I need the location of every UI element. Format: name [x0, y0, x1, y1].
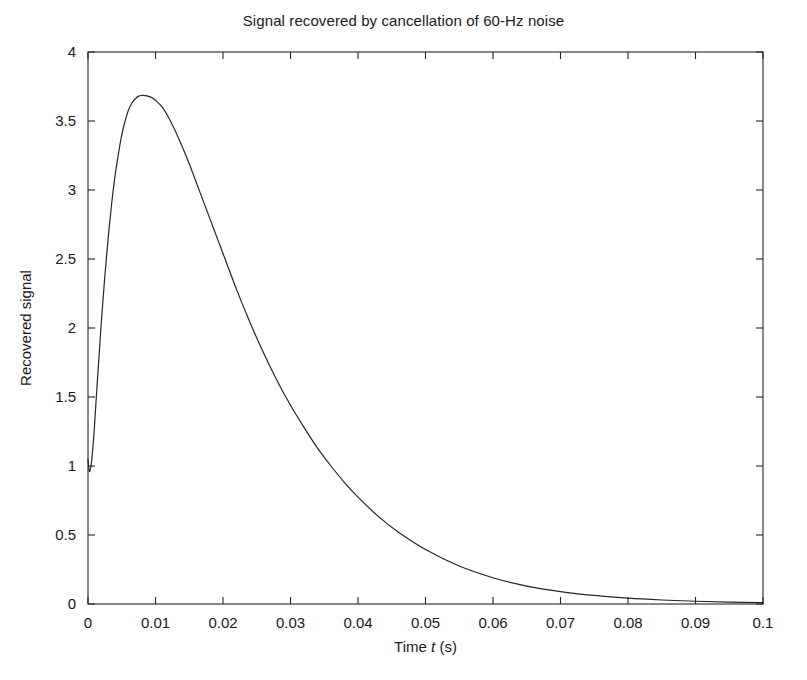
- y-tick-label-0: 0: [68, 595, 76, 612]
- y-tick-label-6: 3: [68, 181, 76, 198]
- x-tick-label-0: 0: [84, 614, 92, 631]
- axes-frame: [88, 52, 763, 604]
- x-tick-label-2: 0.02: [208, 614, 237, 631]
- x-tick-label-8: 0.08: [613, 614, 642, 631]
- y-tick-label-4: 2: [68, 319, 76, 336]
- y-tick-label-3: 1.5: [55, 388, 76, 405]
- y-tick-label-8: 4: [68, 43, 76, 60]
- x-tick-label-7: 0.07: [546, 614, 575, 631]
- data-series-group: [88, 95, 763, 602]
- x-tick-label-9: 0.09: [681, 614, 710, 631]
- chart-figure: Signal recovered by cancellation of 60-H…: [0, 0, 807, 680]
- plot-area: 00.010.020.030.040.050.060.070.080.090.1…: [0, 0, 807, 680]
- x-tick-label-4: 0.04: [343, 614, 372, 631]
- y-tick-labels: 00.511.522.533.54: [55, 43, 76, 612]
- x-tick-label-6: 0.06: [478, 614, 507, 631]
- y-tick-label-7: 3.5: [55, 112, 76, 129]
- y-tick-label-5: 2.5: [55, 250, 76, 267]
- series-line-0: [88, 95, 763, 602]
- y-tick-marks: [88, 52, 763, 604]
- y-tick-label-1: 0.5: [55, 526, 76, 543]
- y-tick-label-2: 1: [68, 457, 76, 474]
- axis-box: [88, 52, 763, 604]
- x-tick-label-1: 0.01: [141, 614, 170, 631]
- x-tick-label-10: 0.1: [753, 614, 774, 631]
- x-tick-marks: [88, 52, 763, 604]
- x-tick-label-5: 0.05: [411, 614, 440, 631]
- x-tick-labels: 00.010.020.030.040.050.060.070.080.090.1: [84, 614, 774, 631]
- x-tick-label-3: 0.03: [276, 614, 305, 631]
